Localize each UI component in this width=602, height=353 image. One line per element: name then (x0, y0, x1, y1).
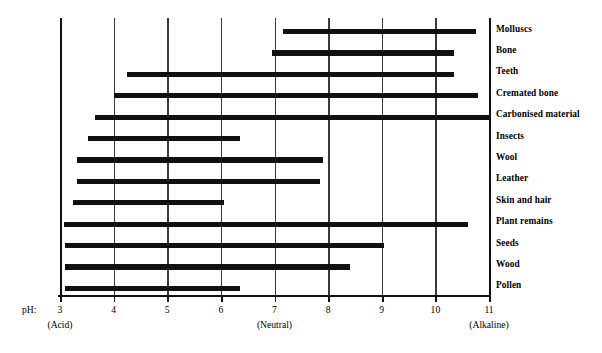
range-bar (283, 29, 476, 34)
bar-row (60, 257, 489, 278)
category-label: Teeth (496, 66, 518, 77)
plot-area (60, 18, 489, 296)
x-tick-label-9: 9 (367, 304, 397, 315)
range-bar (95, 115, 489, 120)
category-label: Bone (496, 45, 517, 56)
bar-row (60, 236, 489, 257)
range-bar (64, 222, 467, 227)
bar-row (60, 86, 489, 107)
x-tick-3 (60, 295, 62, 302)
category-label: Wood (496, 259, 520, 270)
x-tick-5 (167, 295, 169, 302)
x-tick-label-11: 11 (474, 304, 504, 315)
category-label: Skin and hair (496, 195, 552, 206)
ph-preservation-chart: MolluscsBoneTeethCremated boneCarbonised… (0, 0, 602, 353)
ph-zone-label: (Acid) (25, 319, 95, 330)
x-tick-label-3: 3 (45, 304, 75, 315)
range-bar (88, 136, 240, 141)
range-bar (114, 93, 479, 98)
bar-row (60, 215, 489, 236)
range-bar (127, 72, 454, 77)
range-bar (77, 179, 320, 184)
ph-zone-label: (Neutral) (240, 319, 310, 330)
bar-row (60, 172, 489, 193)
range-bar (73, 200, 223, 205)
bar-row (60, 22, 489, 43)
category-label: Plant remains (496, 216, 553, 227)
gridline-ph-11 (489, 18, 491, 296)
bar-row (60, 129, 489, 150)
x-tick-10 (435, 295, 437, 302)
bar-row (60, 108, 489, 129)
ph-zone-label: (Alkaline) (454, 319, 524, 330)
x-tick-6 (221, 295, 223, 302)
category-label: Carbonised material (496, 109, 580, 120)
x-tick-label-8: 8 (313, 304, 343, 315)
bar-row (60, 65, 489, 86)
x-tick-4 (114, 295, 116, 302)
x-tick-label-6: 6 (206, 304, 236, 315)
x-tick-label-4: 4 (99, 304, 129, 315)
x-tick-label-7: 7 (260, 304, 290, 315)
x-tick-8 (328, 295, 330, 302)
category-label: Cremated bone (496, 88, 558, 99)
category-label: Wool (496, 152, 517, 163)
ph-axis-prefix: pH: (22, 304, 36, 315)
range-bar (65, 286, 239, 291)
bar-row (60, 43, 489, 64)
range-bar (77, 157, 323, 162)
range-bar (65, 243, 384, 248)
x-tick-11 (489, 295, 491, 302)
bar-row (60, 193, 489, 214)
range-bar (272, 50, 454, 55)
category-label: Seeds (496, 238, 519, 249)
x-tick-label-10: 10 (420, 304, 450, 315)
range-bar (65, 264, 349, 269)
x-tick-7 (275, 295, 277, 302)
bar-row (60, 150, 489, 171)
category-label-list: MolluscsBoneTeethCremated boneCarbonised… (496, 18, 602, 296)
category-label: Pollen (496, 280, 521, 291)
category-label: Leather (496, 173, 528, 184)
category-label: Molluscs (496, 24, 532, 35)
category-label: Insects (496, 131, 524, 142)
x-tick-9 (382, 295, 384, 302)
x-tick-label-5: 5 (152, 304, 182, 315)
